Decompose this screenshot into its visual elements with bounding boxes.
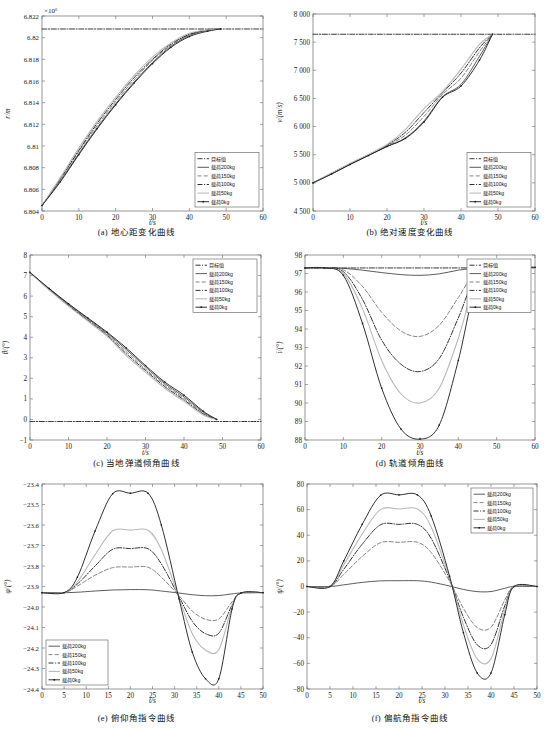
series-marker (477, 672, 478, 673)
series-marker (192, 651, 193, 652)
y-axis-label: ψ/(°) (275, 579, 284, 594)
series-marker (189, 36, 190, 37)
y-tick-label: −24.2 (23, 645, 39, 652)
y-tick-label: −23.4 (23, 481, 39, 488)
x-tick-label: 5 (62, 692, 66, 700)
series-marker (417, 494, 418, 495)
x-tick-label: 10 (346, 214, 354, 222)
caption-b-text: 绝对速度变化曲线 (380, 227, 454, 237)
panel-c: 0102030405060−1012345678t/sθ/(°)目标值载荷200… (0, 243, 273, 470)
series-line (313, 34, 492, 183)
legend-label: 载荷200kg (483, 271, 507, 278)
y-tick-label: −23.7 (23, 542, 39, 549)
y-tick-label: 6 (23, 293, 27, 301)
series-marker (112, 493, 113, 494)
legend-swatch-marker (201, 306, 203, 308)
series-marker (419, 438, 420, 439)
legend-label: 载荷0kg (483, 199, 501, 206)
y-tick-label: 3 (23, 354, 27, 362)
x-tick-label: 45 (510, 692, 518, 700)
plot-e: 05101520253035404550−24.4−24.3−24.2−24.1… (0, 470, 273, 729)
y-axis-label: θ/(°) (1, 340, 10, 354)
caption-d: (d)轨道倾角曲线 (273, 456, 547, 468)
x-tick-label: 0 (311, 214, 315, 222)
series-marker (442, 97, 443, 98)
y-tick-label: 8 000 (294, 11, 311, 19)
caption-c: (c)当地弹道倾角曲线 (0, 456, 273, 468)
x-axis-label: t/s (419, 696, 426, 705)
series-marker (207, 30, 208, 31)
series-marker (240, 592, 241, 593)
panel-e: 05101520253035404550−24.4−24.3−24.2−24.1… (0, 470, 273, 729)
series-marker (78, 154, 79, 155)
series-marker (534, 267, 535, 268)
y-tick-label: 95 (295, 307, 303, 315)
y-tick-label: 6.816 (24, 78, 40, 85)
y-axis-label: r/m (3, 108, 12, 119)
y-tick-label: 93 (295, 344, 303, 352)
legend: 目标值载荷200kg载荷150kg载荷100kg载荷50kg载荷0kg (195, 152, 259, 207)
caption-a: (a)地心距变化曲线 (0, 225, 273, 237)
legend-label: 载荷200kg (209, 271, 233, 278)
legend-swatch-marker (203, 201, 205, 203)
series-line (42, 29, 221, 206)
x-tick-label: 60 (259, 214, 267, 222)
series-marker (178, 598, 179, 599)
y-tick-label: 92 (295, 363, 303, 371)
series-marker (216, 419, 217, 420)
series-marker (513, 586, 514, 587)
series-marker (152, 63, 153, 64)
legend-label: 载荷50kg (483, 190, 504, 197)
series-marker (145, 365, 146, 366)
x-tick-label: 5 (328, 692, 332, 700)
legend-label: 载荷150kg (62, 652, 86, 659)
y-tick-label: 6.806 (24, 186, 40, 193)
caption-f-index: (f) (372, 713, 381, 723)
series-marker (405, 138, 406, 139)
plot-d: 01020304050608889909192939495969798t/si/… (273, 243, 547, 470)
series-marker (398, 494, 399, 495)
x-tick-label: 10 (83, 692, 91, 700)
series-marker (331, 173, 332, 174)
y-tick-label: 91 (295, 381, 303, 389)
legend: 目标值载荷200kg载荷150kg载荷100kg载荷50kg载荷0kg (467, 152, 531, 207)
series-marker (203, 411, 204, 412)
y-tick-label: −24.0 (23, 604, 39, 611)
legend-label: 载荷50kg (211, 190, 232, 197)
series-marker (380, 495, 381, 496)
y-tick-label: −24.3 (23, 665, 39, 672)
caption-f-text: 偏航角指令曲线 (384, 713, 448, 723)
y-tick-label: 6.804 (24, 208, 40, 215)
series-line (42, 29, 221, 206)
chart-d: 01020304050608889909192939495969798t/si/… (273, 243, 547, 470)
y-tick-label: 6.812 (24, 121, 40, 128)
series-marker (368, 155, 369, 156)
caption-e: (e)俯仰角指令曲线 (0, 711, 273, 723)
x-tick-label: 60 (531, 214, 539, 222)
legend-label: 载荷0kg (487, 525, 505, 532)
x-tick-label: 60 (531, 443, 539, 451)
x-tick-label: 20 (127, 692, 135, 700)
series-marker (231, 608, 232, 609)
legend-label: 载荷100kg (62, 660, 86, 667)
x-tick-label: 40 (457, 214, 465, 222)
legend-label: 载荷50kg (209, 296, 230, 303)
x-tick-label: 0 (40, 692, 44, 700)
x-tick-label: 10 (349, 692, 357, 700)
chart-c: 0102030405060−1012345678t/sθ/(°)目标值载荷200… (0, 243, 273, 470)
series-marker (29, 272, 30, 273)
y-tick-label: 6.814 (24, 99, 40, 106)
y-tick-label: −24.1 (23, 624, 39, 631)
y-tick-label: 4 500 (294, 208, 311, 216)
chart-b: 01020304050604 5005 0005 5006 0006 5007 … (273, 0, 547, 243)
caption-d-index: (d) (376, 458, 387, 468)
series-marker (304, 267, 305, 268)
panel-d: 01020304050608889909192939495969798t/si/… (273, 243, 547, 470)
plot-a: 01020304050606.8046.8066.8086.816.8126.8… (0, 0, 273, 243)
x-tick-label: 10 (75, 214, 83, 222)
series-line (307, 581, 537, 592)
x-tick-label: 15 (372, 692, 380, 700)
y-axis-label: φ/(°) (3, 579, 12, 594)
y-tick-label: 6.808 (24, 164, 40, 171)
series-line (313, 34, 492, 183)
